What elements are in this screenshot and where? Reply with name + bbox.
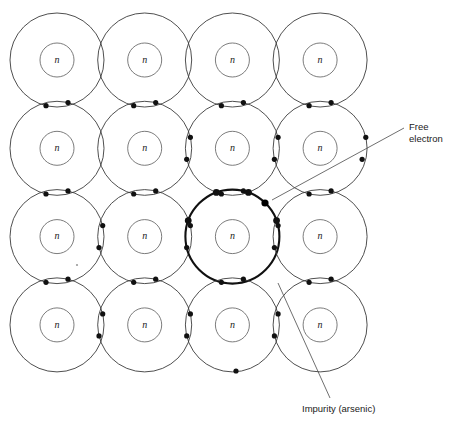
valence-electron-dot	[100, 223, 105, 228]
valence-electron-dot	[65, 188, 70, 193]
valence-electron-dot	[131, 191, 136, 196]
paper-speck	[76, 264, 78, 266]
atom-core-label: n	[318, 319, 323, 330]
atom-core-label: n	[142, 142, 147, 153]
atom-core-label: n	[55, 142, 60, 153]
valence-electron-dot	[188, 135, 193, 140]
valence-electron-dot	[219, 103, 224, 108]
valence-electron-dot	[131, 103, 136, 108]
valence-electron-dot	[307, 103, 312, 108]
atom-core-label: n	[230, 230, 235, 241]
valence-electron-dot	[360, 157, 365, 162]
semiconductor-lattice-figure: nnnnnnnnnnnnnnnn Free electron Impurity …	[0, 0, 458, 435]
atom-core-label: n	[142, 54, 147, 65]
free-electron-label-line2: electron	[409, 133, 443, 144]
valence-electron-dot	[153, 277, 158, 282]
valence-electron-dot	[43, 103, 48, 108]
valence-electron-dot	[272, 333, 277, 338]
valence-electron-dot	[233, 368, 238, 373]
free-electron-label-line1: Free	[409, 121, 429, 132]
valence-electron-dot	[131, 280, 136, 285]
valence-electron-dot	[329, 100, 334, 105]
valence-electron-dot	[245, 189, 252, 196]
impurity-leader-line	[278, 283, 330, 398]
valence-electron-dot	[96, 245, 101, 250]
atom-core-label: n	[230, 142, 235, 153]
valence-electron-dot	[329, 188, 334, 193]
atom-core-label: n	[142, 319, 147, 330]
valence-electron-dot	[275, 135, 280, 140]
atom-core-label: n	[55, 319, 60, 330]
impurity-label: Impurity (arsenic)	[302, 403, 375, 414]
valence-electron-dot	[219, 280, 224, 285]
atom-core-label: n	[318, 54, 323, 65]
valence-electron-dot	[188, 311, 193, 316]
atom-core-label: n	[230, 319, 235, 330]
valence-electron-dot	[153, 100, 158, 105]
valence-electron-dot	[65, 277, 70, 282]
valence-electron-dot	[96, 333, 101, 338]
valence-electron-dot	[213, 189, 220, 196]
atom-shells-layer	[10, 13, 367, 372]
atom-core-label: n	[318, 142, 323, 153]
valence-electron-dot	[43, 191, 48, 196]
atom-core-label: n	[55, 54, 60, 65]
valence-electron-dot	[185, 217, 192, 224]
valence-electron-dot	[241, 100, 246, 105]
free-electron-leader-line	[272, 128, 404, 200]
valence-electron-dot	[307, 191, 312, 196]
valence-electron-dot	[363, 135, 368, 140]
valence-electron-dot	[184, 245, 189, 250]
atom-core-label: n	[55, 230, 60, 241]
valence-electron-dot	[100, 311, 105, 316]
valence-electron-dot	[184, 157, 189, 162]
valence-electron-dot	[43, 280, 48, 285]
lattice-diagram: nnnnnnnnnnnnnnnn Free electron Impurity …	[0, 0, 458, 435]
valence-electron-dot	[307, 280, 312, 285]
atom-cores-layer	[40, 43, 337, 342]
valence-electron-dot	[272, 157, 277, 162]
valence-electron-dot	[241, 277, 246, 282]
atom-core-label: n	[318, 230, 323, 241]
valence-electron-dot	[329, 277, 334, 282]
valence-electron-dot	[275, 311, 280, 316]
free-electron-dot	[261, 199, 268, 206]
valence-electron-dot	[153, 188, 158, 193]
valence-electron-dot	[184, 333, 189, 338]
valence-electron-dot	[272, 245, 277, 250]
atom-core-label: n	[142, 230, 147, 241]
valence-electron-dot	[65, 100, 70, 105]
atom-core-label: n	[230, 54, 235, 65]
atom-core-labels-layer: nnnnnnnnnnnnnnnn	[55, 54, 323, 330]
valence-electron-dot	[273, 217, 280, 224]
